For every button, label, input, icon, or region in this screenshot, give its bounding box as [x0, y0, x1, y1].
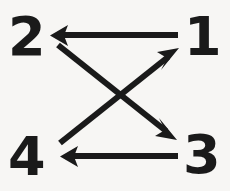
arrow-4-to-1-shaft [60, 57, 168, 143]
arrow-2-to-3-shaft [58, 45, 166, 131]
arrow-1-to-2 [50, 25, 178, 46]
arrow-3-to-4 [60, 146, 178, 167]
arrow-2-to-3 [58, 45, 177, 140]
node-label-1: 1 [184, 10, 221, 64]
node-label-3: 3 [183, 128, 220, 182]
node-label-4: 4 [8, 130, 45, 184]
diagram-canvas: 2 1 4 3 [0, 0, 230, 191]
node-label-2: 2 [8, 10, 45, 64]
